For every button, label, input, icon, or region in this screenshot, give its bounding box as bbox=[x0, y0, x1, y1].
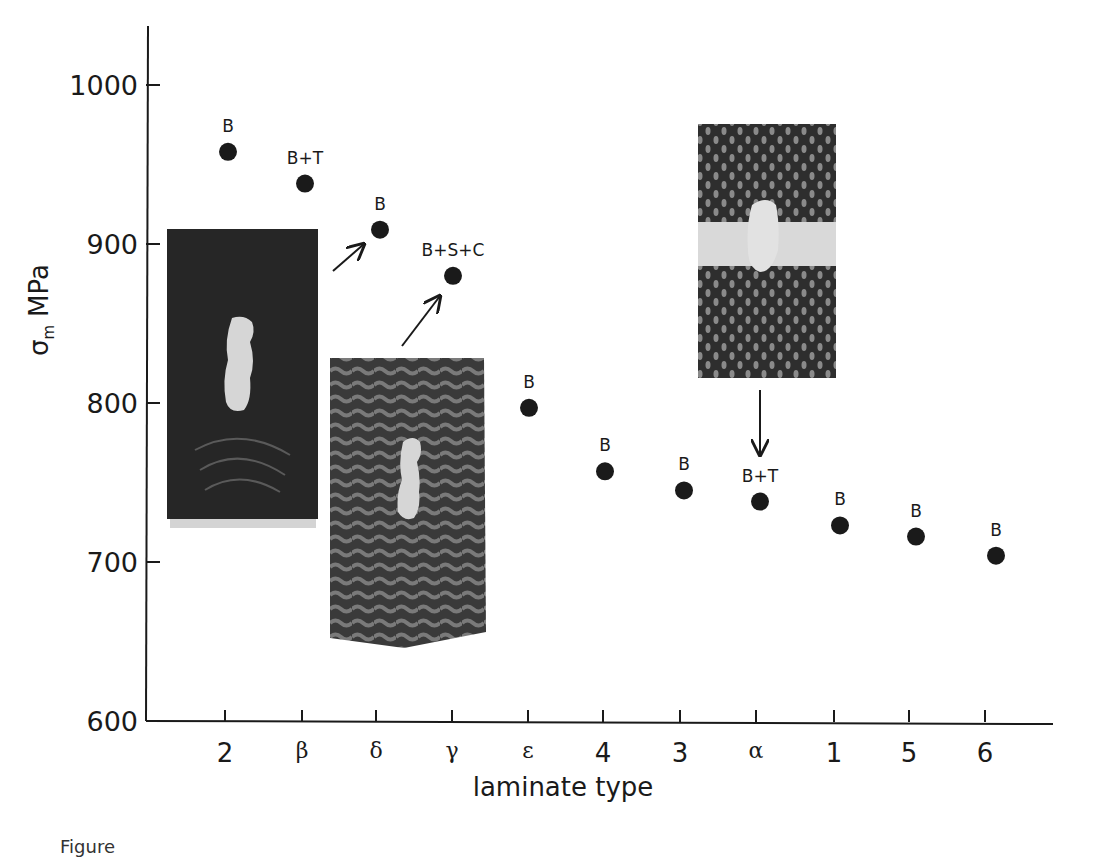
x-tick-label: 1 bbox=[826, 738, 843, 768]
x-tick-label: 2 bbox=[217, 738, 234, 768]
x-tick-label: γ bbox=[445, 738, 458, 763]
y-tick-label: 600 bbox=[86, 706, 138, 737]
x-axis-title: laminate type bbox=[473, 772, 654, 802]
data-point bbox=[219, 143, 237, 161]
figure-caption-fragment: Figure bbox=[60, 836, 115, 857]
x-tick-label: β bbox=[296, 738, 309, 763]
data-point-label: B bbox=[990, 520, 1002, 540]
data-point bbox=[831, 516, 849, 534]
x-tick-label: ε bbox=[522, 738, 533, 763]
arrow-to-gamma bbox=[402, 296, 440, 346]
svg-text:σmMPa: σmMPa bbox=[24, 264, 58, 356]
data-point bbox=[296, 175, 314, 193]
data-point-label: B bbox=[222, 116, 234, 136]
x-tick-label: 5 bbox=[901, 738, 918, 768]
data-point-label: B bbox=[834, 489, 846, 509]
data-point-label: B+T bbox=[742, 466, 779, 486]
data-point-label: B+T bbox=[287, 148, 324, 168]
data-point-label: B+S+C bbox=[422, 240, 485, 260]
data-point bbox=[371, 221, 389, 239]
data-point-label: B bbox=[910, 501, 922, 521]
data-point bbox=[751, 493, 769, 511]
data-point-label: B bbox=[678, 454, 690, 474]
data-point bbox=[987, 547, 1005, 565]
data-point-label: B bbox=[599, 435, 611, 455]
y-axis: 6007008009001000 bbox=[69, 26, 160, 737]
data-point-label: B bbox=[523, 372, 535, 392]
y-axis-title: σmMPa bbox=[24, 264, 58, 356]
x-tick-label: 4 bbox=[595, 738, 612, 768]
x-tick-label: 6 bbox=[977, 738, 994, 768]
y-tick-label: 700 bbox=[86, 547, 138, 578]
x-tick-label: α bbox=[749, 738, 764, 763]
data-point bbox=[907, 528, 925, 546]
inset-photo-2 bbox=[330, 358, 486, 648]
arrow-to-delta bbox=[333, 244, 364, 271]
y-tick-label: 800 bbox=[86, 388, 138, 419]
x-axis: 2βδγε43α156 bbox=[146, 710, 1053, 768]
data-point bbox=[520, 399, 538, 417]
x-tick-label: 3 bbox=[672, 738, 689, 768]
inset-photo-3 bbox=[698, 124, 836, 378]
data-point bbox=[444, 267, 462, 285]
x-tick-label: δ bbox=[369, 738, 382, 763]
inset-photo-1 bbox=[167, 229, 318, 528]
y-tick-label: 1000 bbox=[69, 70, 138, 101]
data-point bbox=[596, 462, 614, 480]
data-point-label: B bbox=[374, 194, 386, 214]
y-tick-label: 900 bbox=[86, 229, 138, 260]
data-point bbox=[675, 481, 693, 499]
